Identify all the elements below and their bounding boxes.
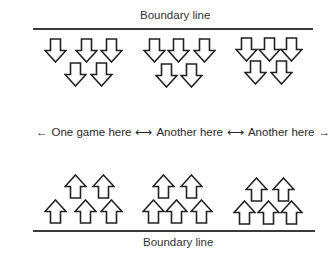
- bottom-boundary-line: [33, 230, 315, 232]
- down-arrow-icon: [75, 38, 98, 63]
- down-arrow-icon: [143, 38, 166, 63]
- up-arrow-icon: [142, 199, 165, 224]
- game-area-1-label: One game here: [52, 126, 132, 138]
- down-arrow-icon: [44, 38, 67, 63]
- up-arrow-icon: [257, 200, 280, 225]
- game-area-2-label: Another here: [156, 126, 223, 138]
- down-arrow-icon: [155, 63, 178, 88]
- up-arrow-icon: [180, 174, 203, 199]
- up-arrow-icon: [92, 174, 115, 199]
- up-arrow-icon: [280, 200, 303, 225]
- down-arrow-icon: [90, 62, 113, 87]
- game-area-3-label: Another here: [248, 126, 315, 138]
- right-arrow-icon: →: [318, 126, 330, 138]
- down-arrow-icon: [270, 60, 293, 85]
- up-arrow-icon: [64, 174, 87, 199]
- up-arrow-icon: [272, 177, 295, 202]
- left-arrow-icon: ←: [36, 126, 48, 138]
- down-arrow-icon: [193, 38, 216, 63]
- down-arrow-icon: [64, 62, 87, 87]
- up-arrow-icon: [245, 177, 268, 202]
- down-arrow-icon: [280, 37, 303, 62]
- down-arrow-icon: [100, 38, 123, 63]
- double-arrow-icon: ⟷: [227, 125, 244, 139]
- down-arrow-icon: [244, 60, 267, 85]
- game-areas-label-row: ← One game here ⟷ Another here ⟷ Another…: [36, 125, 330, 139]
- down-arrow-icon: [167, 38, 190, 63]
- down-arrow-icon: [180, 63, 203, 88]
- up-arrow-icon: [74, 199, 97, 224]
- up-arrow-icon: [152, 174, 175, 199]
- up-arrow-icon: [100, 199, 123, 224]
- up-arrow-icon: [190, 199, 213, 224]
- up-arrow-icon: [44, 199, 67, 224]
- bottom-boundary-label: Boundary line: [143, 236, 213, 248]
- up-arrow-icon: [233, 200, 256, 225]
- up-arrow-icon: [165, 199, 188, 224]
- down-arrow-icon: [235, 37, 258, 62]
- down-arrow-icon: [258, 37, 281, 62]
- double-arrow-icon: ⟷: [135, 125, 152, 139]
